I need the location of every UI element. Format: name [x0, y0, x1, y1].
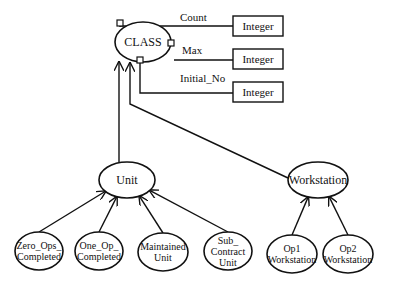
leaf-node-subcontractunit-label: Sub_ [218, 235, 240, 246]
edge-leaf-5 [329, 196, 348, 235]
attribute-name-initial_no: Initial_No [180, 72, 226, 84]
leaf-node-subcontractunit-label: Unit [219, 257, 237, 268]
leaf-node-op1workstation: Op1Workstation [267, 235, 317, 273]
leaf-node-oneopcompleted-label: One_Op_ [80, 240, 120, 251]
class-hierarchy-diagram: CountIntegerMaxIntegerInitial_NoIntegerC… [0, 0, 395, 284]
attribute-port [137, 57, 143, 63]
type-box-initial_no: Integer [233, 82, 283, 102]
attribute-name-count: Count [180, 11, 207, 23]
edge-leaf-2 [139, 195, 163, 233]
subclass-node-workstation-label: Workstation [289, 173, 347, 187]
leaf-node-oneopcompleted-label: Completed [77, 251, 121, 262]
subclass-node-workstation: Workstation [288, 162, 348, 198]
leaf-node-maintainedunit: MaintainedUnit [138, 233, 188, 271]
leaf-node-op2workstation-label: Workstation [324, 254, 373, 265]
leaf-node-maintainedunit-label: Maintained [140, 241, 186, 252]
diagram-canvas: CountIntegerMaxIntegerInitial_NoIntegerC… [0, 0, 395, 284]
type-label: Integer [242, 20, 273, 32]
leaf-node-oneopcompleted: One_Op_Completed [75, 232, 123, 270]
edges [39, 26, 348, 235]
type-box-max: Integer [233, 49, 283, 69]
leaf-node-op1workstation-label: Workstation [268, 254, 317, 265]
type-box-count: Integer [233, 16, 283, 36]
leaf-node-op2workstation: Op2Workstation [323, 235, 373, 273]
attribute-port [168, 40, 174, 46]
leaf-node-zeroopscompleted-label: Zero_Ops_ [17, 240, 63, 251]
type-label: Integer [242, 86, 273, 98]
leaf-node-zeroopscompleted-label: Completed [17, 251, 61, 262]
type-label: Integer [242, 53, 273, 65]
edge-leaf-1 [99, 196, 117, 232]
attribute-name-max: Max [182, 44, 203, 56]
leaf-node-subcontractunit: Sub_ContractUnit [204, 232, 252, 270]
edge-leaf-3 [149, 190, 228, 232]
attribute-port [117, 20, 123, 26]
class-node-label: CLASS [124, 35, 161, 49]
leaf-node-op2workstation-label: Op2 [339, 243, 356, 254]
edge-leaf-0 [39, 191, 106, 232]
leaf-node-maintainedunit-label: Unit [154, 252, 172, 263]
nodes: CountIntegerMaxIntegerInitial_NoIntegerC… [15, 11, 373, 273]
leaf-node-op1workstation-label: Op1 [283, 243, 300, 254]
leaf-node-zeroopscompleted: Zero_Ops_Completed [15, 232, 63, 270]
edge-leaf-4 [292, 196, 309, 235]
leaf-node-subcontractunit-label: Contract [211, 246, 246, 257]
subclass-node-unit-label: Unit [116, 173, 138, 187]
subclass-node-unit: Unit [99, 162, 155, 198]
